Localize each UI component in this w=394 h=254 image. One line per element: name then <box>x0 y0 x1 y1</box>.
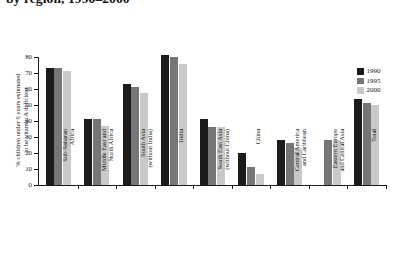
x-category-label: Total <box>370 129 377 191</box>
y-tick-mark <box>34 153 38 154</box>
y-tick-label: 70 <box>18 70 32 77</box>
x-category-label: India <box>177 129 184 191</box>
x-category-label: Eastern Europeand Central Asia <box>331 129 346 191</box>
y-tick-label: 30 <box>18 134 32 141</box>
y-tick-label: 60 <box>18 86 32 93</box>
x-category-label: Sub-SaharanAfrica <box>61 129 76 191</box>
x-category-label: Middle East andNorth Africa <box>100 129 115 191</box>
y-axis-ticks: 01020304050607080 <box>0 0 38 254</box>
y-tick-mark <box>34 185 38 186</box>
y-tick-label: 20 <box>18 150 32 157</box>
y-tick-mark <box>34 137 38 138</box>
x-tick-mark <box>116 185 117 189</box>
y-tick-mark <box>34 89 38 90</box>
bar-1990 <box>238 153 246 185</box>
x-tick-mark <box>386 185 387 189</box>
x-category-label: South Asia(without India) <box>139 129 154 191</box>
x-tick-mark <box>193 185 194 189</box>
legend-item: 1990 <box>357 61 381 69</box>
y-tick-label: 40 <box>18 118 32 125</box>
legend-label: 2000 <box>367 86 381 94</box>
y-tick-mark <box>34 105 38 106</box>
y-tick-mark <box>34 121 38 122</box>
y-tick-mark <box>34 57 38 58</box>
bar-1990 <box>200 119 208 185</box>
bar-1990 <box>354 99 362 185</box>
bar-group <box>155 57 194 185</box>
chart-legend: 199019952000 <box>357 61 381 90</box>
x-category-label: Central Americaand Caribbean <box>293 129 308 191</box>
bar-1990 <box>161 55 169 185</box>
legend-item: 1995 <box>357 71 381 79</box>
bar-1990 <box>123 84 131 185</box>
bar-1990 <box>84 119 92 185</box>
y-tick-label: 80 <box>18 54 32 61</box>
y-tick-mark <box>34 169 38 170</box>
x-tick-mark <box>232 185 233 189</box>
y-tick-label: 50 <box>18 102 32 109</box>
legend-swatch-icon <box>357 87 364 94</box>
x-tick-mark <box>270 185 271 189</box>
chart-plot-area: % children under 6 years estimated to be… <box>0 0 394 254</box>
x-tick-mark <box>78 185 79 189</box>
y-tick-mark <box>34 73 38 74</box>
bar-1990 <box>277 140 285 185</box>
y-tick-label: 0 <box>18 182 32 189</box>
y-tick-label: 10 <box>18 166 32 173</box>
bar-group <box>232 57 271 185</box>
bar-1990 <box>46 68 54 185</box>
x-tick-mark <box>155 185 156 189</box>
legend-item: 2000 <box>357 80 381 88</box>
x-tick-mark <box>347 185 348 189</box>
x-category-label: China <box>254 129 261 191</box>
x-category-label: South East Asia(without China) <box>216 129 231 191</box>
x-tick-mark <box>309 185 310 189</box>
